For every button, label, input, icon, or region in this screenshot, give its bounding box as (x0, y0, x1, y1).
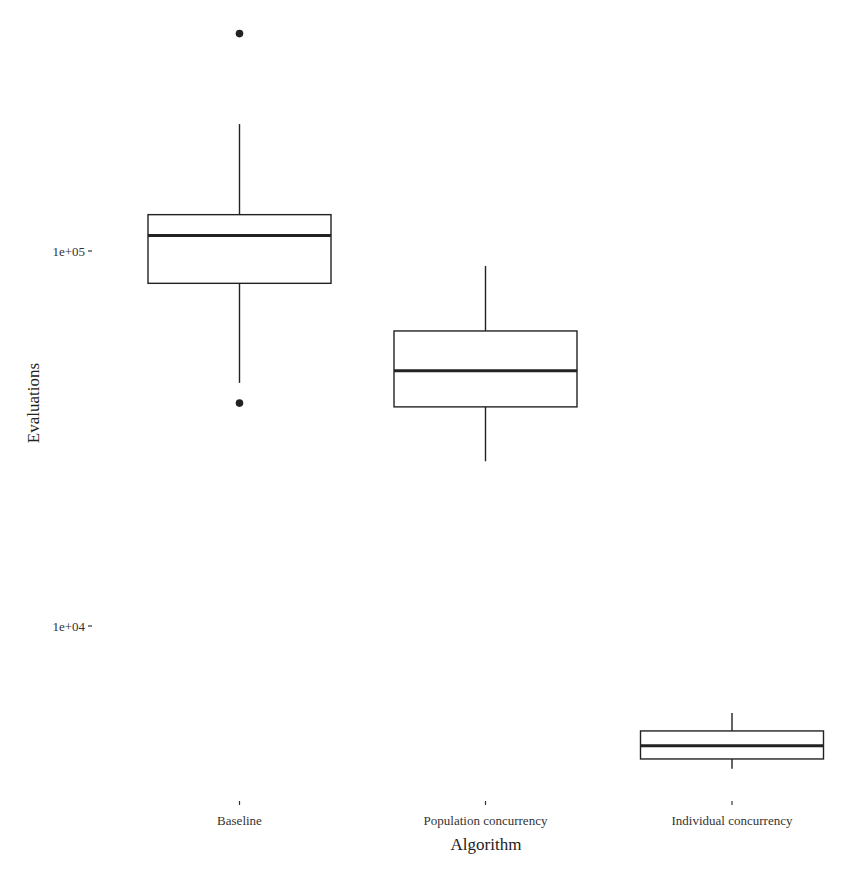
x-axis: BaselinePopulation concurrencyIndividual… (217, 801, 793, 828)
x-tick-label: Baseline (217, 813, 262, 828)
box-series (148, 30, 824, 769)
x-tick-label: Individual concurrency (672, 813, 793, 828)
outlier-point (236, 30, 244, 38)
y-axis: 1e+051e+04 (52, 244, 92, 634)
box-population-concurrency (394, 266, 577, 461)
y-tick-label: 1e+04 (52, 619, 85, 634)
y-tick-label: 1e+05 (52, 244, 85, 259)
x-axis-title: Algorithm (451, 835, 522, 854)
box-individual-concurrency (641, 713, 824, 769)
iqr-box (148, 215, 331, 284)
x-tick-label: Population concurrency (424, 813, 548, 828)
iqr-box (394, 331, 577, 407)
outlier-point (236, 399, 244, 407)
box-baseline (148, 30, 331, 407)
y-axis-title: Evaluations (24, 363, 43, 443)
boxplot-chart: 1e+051e+04 BaselinePopulation concurrenc… (0, 0, 865, 886)
